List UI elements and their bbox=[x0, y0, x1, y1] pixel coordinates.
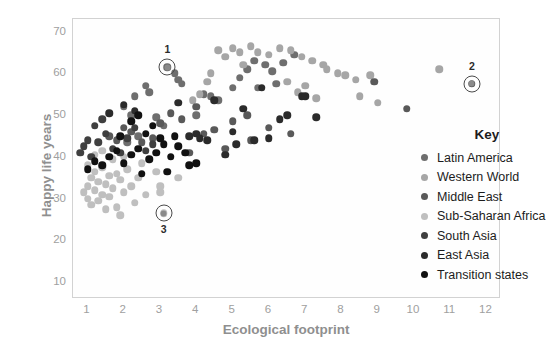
data-point bbox=[142, 147, 150, 155]
data-point bbox=[167, 153, 175, 161]
data-point bbox=[261, 61, 269, 69]
data-point bbox=[370, 78, 378, 86]
data-point bbox=[222, 151, 230, 159]
annotation-marker-3 bbox=[155, 205, 172, 222]
annotation-dot bbox=[161, 210, 167, 216]
legend-swatch-icon bbox=[421, 193, 428, 200]
data-point bbox=[276, 116, 284, 124]
data-point bbox=[131, 93, 139, 101]
x-axis-title: Ecological footprint bbox=[72, 322, 500, 337]
x-tick-11: 11 bbox=[443, 303, 455, 315]
legend-swatch-icon bbox=[421, 174, 428, 181]
data-point bbox=[196, 90, 204, 98]
legend-items: Latin AmericaWestern WorldMiddle EastSub… bbox=[421, 148, 550, 285]
data-point bbox=[106, 109, 114, 117]
data-point bbox=[182, 149, 190, 157]
data-point bbox=[120, 189, 128, 197]
data-point bbox=[95, 139, 103, 147]
data-point bbox=[167, 109, 175, 117]
data-point bbox=[98, 162, 106, 170]
data-point bbox=[102, 205, 110, 213]
legend-swatch-icon bbox=[421, 252, 428, 259]
data-point bbox=[269, 67, 277, 75]
data-point bbox=[265, 134, 273, 142]
data-point bbox=[229, 118, 237, 126]
data-point bbox=[127, 182, 135, 190]
data-point bbox=[171, 132, 179, 140]
data-point bbox=[207, 70, 215, 78]
data-point bbox=[229, 84, 237, 92]
data-point bbox=[280, 59, 288, 67]
data-point bbox=[214, 47, 222, 55]
data-point bbox=[178, 80, 186, 88]
data-point bbox=[174, 143, 182, 151]
legend-swatch-icon bbox=[421, 271, 428, 278]
data-point bbox=[193, 111, 201, 119]
data-point bbox=[356, 93, 364, 101]
data-point bbox=[138, 170, 146, 178]
data-point bbox=[312, 95, 320, 103]
legend-swatch-icon bbox=[421, 213, 428, 220]
legend-item-label: Middle East bbox=[437, 190, 502, 204]
x-tick-4: 4 bbox=[192, 303, 198, 315]
data-point bbox=[149, 122, 157, 130]
data-point bbox=[120, 159, 128, 167]
legend-item-middle-east: Middle East bbox=[421, 187, 550, 207]
y-tick-70: 70 bbox=[40, 25, 66, 37]
legend: Key Latin AmericaWestern WorldMiddle Eas… bbox=[421, 127, 550, 285]
data-point bbox=[211, 97, 219, 105]
data-point bbox=[174, 174, 182, 182]
legend-swatch-icon bbox=[421, 232, 428, 239]
data-point bbox=[193, 103, 201, 111]
data-point bbox=[301, 82, 309, 90]
data-point bbox=[87, 201, 95, 209]
data-point bbox=[113, 147, 121, 155]
data-point bbox=[109, 185, 117, 193]
data-point bbox=[283, 78, 291, 86]
data-point bbox=[84, 166, 92, 174]
data-point bbox=[120, 101, 128, 109]
data-point bbox=[145, 155, 153, 163]
x-tick-2: 2 bbox=[120, 303, 126, 315]
data-point bbox=[116, 132, 124, 140]
data-point bbox=[236, 49, 244, 57]
x-tick-9: 9 bbox=[373, 303, 379, 315]
plot-frame: 123 Key Latin AmericaWestern WorldMiddle… bbox=[72, 18, 500, 298]
data-point bbox=[247, 42, 255, 50]
data-point bbox=[240, 105, 248, 113]
data-point bbox=[258, 84, 266, 92]
data-point bbox=[276, 45, 284, 53]
data-point bbox=[153, 149, 161, 157]
legend-swatch-icon bbox=[421, 154, 428, 161]
data-point bbox=[254, 49, 262, 57]
data-point bbox=[106, 153, 114, 161]
x-tick-7: 7 bbox=[301, 303, 307, 315]
legend-item-label: Transition states bbox=[437, 268, 528, 282]
annotation-label-1: 1 bbox=[164, 43, 170, 55]
data-point bbox=[98, 116, 106, 124]
data-point bbox=[287, 47, 295, 55]
data-point bbox=[203, 78, 211, 86]
legend-item-sub-saharan-africa: Sub-Saharan Africa bbox=[421, 207, 550, 227]
data-point bbox=[116, 176, 124, 184]
data-point bbox=[84, 136, 92, 144]
data-point bbox=[116, 212, 124, 220]
data-point bbox=[102, 130, 110, 138]
annotation-marker-1 bbox=[159, 59, 176, 76]
data-point bbox=[283, 111, 291, 119]
annotation-dot bbox=[164, 64, 170, 70]
data-point bbox=[135, 145, 143, 153]
data-point bbox=[403, 105, 411, 113]
legend-item-label: East Asia bbox=[437, 248, 489, 262]
data-point bbox=[106, 193, 114, 201]
data-point bbox=[287, 130, 295, 138]
annotation-marker-2 bbox=[463, 75, 480, 92]
legend-item-label: Western World bbox=[437, 170, 519, 184]
data-point bbox=[138, 159, 146, 167]
annotation-label-2: 2 bbox=[469, 60, 475, 72]
data-point bbox=[193, 159, 201, 167]
legend-item-south-asia: South Asia bbox=[421, 226, 550, 246]
data-point bbox=[309, 57, 317, 65]
data-point bbox=[251, 136, 259, 144]
